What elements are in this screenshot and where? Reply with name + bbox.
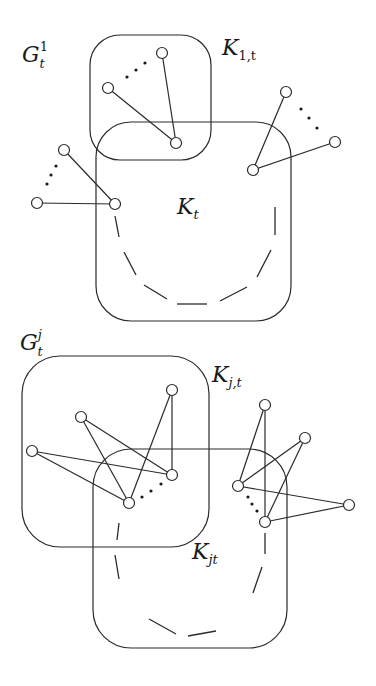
ellipsis-dot — [315, 126, 318, 129]
diagram-canvas: Gt1 K1,t Kt Gtj Kj,t Kjt — [0, 0, 376, 686]
vertex-p2 — [76, 412, 87, 423]
dash-segment — [144, 285, 167, 299]
dash-segment — [115, 216, 119, 237]
edge — [238, 486, 349, 505]
ellipsis-dots — [45, 61, 318, 185]
vertices — [27, 385, 355, 528]
edge — [253, 92, 286, 170]
ellipsis-dot — [45, 182, 48, 185]
vertex-p5 — [124, 498, 135, 509]
edge — [265, 438, 305, 522]
vertex-c1 — [281, 87, 292, 98]
graph-label-gjt: Gtj — [20, 327, 44, 359]
vertex-q2 — [300, 433, 311, 444]
clique-label-kjt-big: Kjt — [191, 539, 218, 567]
dashed-arc — [115, 523, 265, 636]
dash-segment — [117, 523, 119, 540]
vertex-p4 — [167, 470, 178, 481]
dash-segment — [115, 555, 119, 579]
ellipsis-dot — [149, 489, 152, 492]
dash-segment — [149, 619, 176, 634]
edges — [37, 53, 335, 204]
dash-segment — [257, 250, 271, 277]
top-diagram: Gt1 K1,t Kt — [22, 35, 341, 321]
clique-label-kjt-small: Kj,t — [211, 362, 243, 390]
vertex-c2 — [330, 137, 341, 148]
edge — [238, 405, 265, 486]
vertex-q5 — [260, 517, 271, 528]
clique-box-kjt_small — [22, 356, 209, 547]
vertex-a2 — [103, 83, 114, 94]
clique-label-kt: Kt — [176, 194, 199, 222]
edge — [162, 53, 176, 143]
ellipsis-dot — [140, 495, 143, 498]
edges — [32, 390, 349, 522]
ellipsis-dot — [143, 61, 146, 64]
edge — [129, 390, 172, 503]
ellipsis-dot — [250, 502, 253, 505]
ellipsis-dot — [159, 482, 162, 485]
ellipsis-dot — [54, 164, 57, 167]
clique-boxes — [90, 35, 291, 321]
ellipsis-dot — [246, 495, 249, 498]
vertex-a3 — [171, 138, 182, 149]
vertex-b3 — [110, 199, 121, 210]
vertex-p3 — [27, 446, 38, 457]
vertex-a1 — [157, 48, 168, 59]
edge — [64, 150, 115, 204]
vertex-p1 — [167, 385, 178, 396]
edge — [108, 88, 176, 143]
edge — [265, 505, 349, 522]
vertex-q4 — [344, 500, 355, 511]
vertex-b1 — [59, 145, 70, 156]
clique-boxes — [22, 356, 287, 648]
dash-segment — [220, 287, 247, 301]
vertex-b2 — [32, 198, 43, 209]
vertices — [32, 48, 341, 210]
dash-segment — [188, 631, 216, 636]
bottom-diagram: Gtj Kj,t Kjt — [20, 327, 355, 648]
ellipsis-dot — [125, 75, 128, 78]
edge — [37, 203, 115, 204]
vertex-q1 — [260, 400, 271, 411]
graph-label-g1t: Gt1 — [22, 39, 48, 71]
clique-box-kjt_big — [93, 449, 287, 648]
vertex-c3 — [248, 165, 259, 176]
ellipsis-dot — [255, 509, 258, 512]
dash-segment — [253, 567, 262, 593]
ellipsis-dot — [49, 173, 52, 176]
ellipsis-dot — [299, 107, 302, 110]
edge — [253, 142, 335, 170]
ellipsis-dot — [134, 68, 137, 71]
ellipsis-dot — [307, 116, 310, 119]
clique-label-k1t: K1,t — [221, 35, 257, 63]
dash-segment — [124, 252, 136, 275]
clique-box-k1t — [90, 35, 211, 160]
edge — [238, 438, 305, 486]
vertex-q3 — [233, 481, 244, 492]
